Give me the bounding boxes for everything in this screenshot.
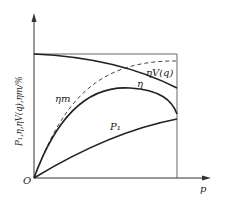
curve-p1: [34, 119, 177, 178]
chart: ηV(q) η ηm P₁ O p P₁,η,ηV(q),ηm/%: [0, 0, 227, 200]
label-p1: P₁: [109, 121, 121, 132]
label-eta: η: [137, 78, 143, 89]
x-axis-label: p: [200, 183, 207, 194]
y-axis-arrow-icon: [32, 13, 37, 22]
y-axis-label: P₁,η,ηV(q),ηm/%: [14, 76, 24, 147]
label-etaV: ηV(q): [146, 67, 174, 78]
label-etam: ηm: [55, 93, 70, 104]
x-axis-arrow-icon: [202, 176, 211, 181]
origin-label: O: [23, 175, 31, 186]
